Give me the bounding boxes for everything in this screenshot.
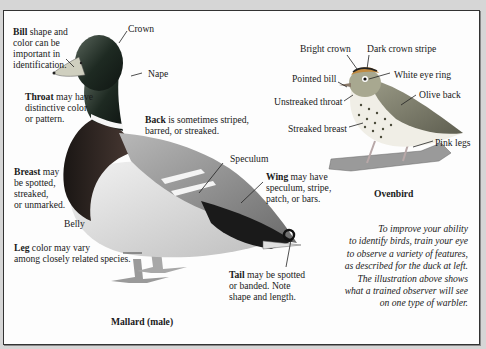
caption-ovenbird: Ovenbird: [374, 188, 413, 199]
instruction-note: To improve your ability to identify bird…: [345, 223, 468, 310]
label-speculum: Speculum: [230, 153, 268, 164]
label-breast: Breast may be spotted, streaked, or unma…: [14, 166, 65, 210]
label-bright-crown: Bright crown: [300, 43, 351, 54]
label-pink-legs: Pink legs: [435, 137, 470, 148]
label-nape: Nape: [148, 68, 168, 79]
label-white-eye-ring: White eye ring: [394, 69, 451, 80]
label-tail: Tail may be spotted or banded. Note shap…: [229, 269, 305, 302]
label-crown: Crown: [128, 23, 154, 34]
label-olive-back: Olive back: [419, 89, 461, 100]
ovenbird-figure: [329, 67, 463, 171]
label-wing: Wing may have speculum, stripe, patch, o…: [266, 171, 331, 204]
label-pointed-bill: Pointed bill: [292, 73, 337, 84]
illustration-panel: Bill shape and color can be important in…: [3, 10, 480, 345]
label-leg: Leg color may vary among closely related…: [14, 242, 131, 264]
label-streaked-breast: Streaked breast: [288, 123, 347, 134]
label-throat: Throat may have distinctive color or pat…: [25, 91, 93, 124]
caption-mallard: Mallard (male): [111, 316, 173, 327]
label-bill: Bill shape and color can be important in…: [13, 26, 68, 70]
label-belly: Belly: [64, 218, 85, 229]
label-dark-crown-stripe: Dark crown stripe: [367, 43, 436, 54]
label-back: Back is sometimes striped, barred, or st…: [145, 114, 249, 136]
label-unstreaked-throat: Unstreaked throat: [274, 96, 342, 107]
